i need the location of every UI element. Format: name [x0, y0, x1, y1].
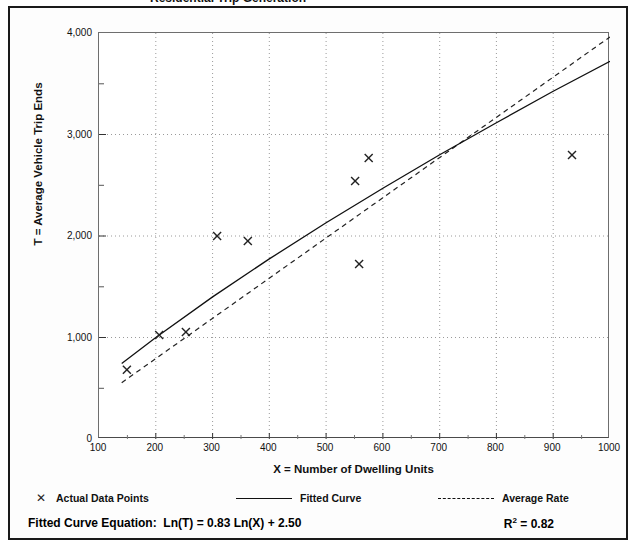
series-actual-data-points: [123, 151, 576, 374]
series-fitted-curve: [122, 61, 610, 363]
y-tick-1000: 1,000: [67, 331, 92, 342]
data-point-marker: [244, 237, 252, 245]
dashed-line-icon: [438, 492, 494, 504]
chart-title: Residential Trip Generation: [150, 0, 306, 5]
x-tick-200: 200: [146, 442, 163, 453]
data-point-marker: [351, 177, 359, 185]
x-tick-500: 500: [317, 442, 334, 453]
r-squared-exponent: 2: [513, 516, 517, 525]
r-squared-label: R: [504, 517, 513, 531]
series-average-rate: [122, 37, 610, 383]
x-tick-1000: 1000: [598, 442, 620, 453]
x-tick-800: 800: [487, 442, 504, 453]
legend-item-actual-data-points: ✕ Actual Data Points: [34, 488, 149, 508]
r-squared-value: = 0.82: [520, 517, 554, 531]
legend-label-average-rate: Average Rate: [502, 492, 569, 504]
x-marker-icon: ✕: [34, 492, 48, 504]
x-tick-300: 300: [203, 442, 220, 453]
legend-item-fitted-curve: Fitted Curve: [236, 488, 361, 508]
chart-footer: Fitted Curve Equation: Ln(T) = 0.83 Ln(X…: [28, 516, 612, 538]
plot-area: [98, 32, 609, 438]
equation-label: Fitted Curve Equation:: [28, 516, 157, 530]
x-tick-700: 700: [430, 442, 447, 453]
data-point-marker: [365, 154, 373, 162]
data-point-marker: [182, 328, 190, 336]
page-border: 0 1,000 2,000 3,000 4,000: [8, 6, 628, 540]
x-tick-100: 100: [90, 442, 107, 453]
legend-item-average-rate: Average Rate: [438, 488, 569, 508]
x-axis-label: X = Number of Dwelling Units: [98, 463, 609, 475]
x-axis-tick-labels: 100 200 300 400 500 600 700 800 900 1000: [98, 442, 609, 458]
equation-value: Ln(T) = 0.83 Ln(X) + 2.50: [163, 516, 301, 530]
y-tick-2000: 2,000: [67, 230, 92, 241]
legend-label-actual-data-points: Actual Data Points: [56, 492, 149, 504]
y-axis-label: T = Average Vehicle Trip Ends: [32, 54, 44, 274]
fitted-curve-equation: Fitted Curve Equation: Ln(T) = 0.83 Ln(X…: [28, 516, 301, 530]
x-tick-900: 900: [544, 442, 561, 453]
r-squared-statistic: R2 = 0.82: [504, 516, 554, 531]
chart-legend: ✕ Actual Data Points Fitted Curve Averag…: [20, 488, 620, 510]
y-axis-tick-labels: 0 1,000 2,000 3,000 4,000: [44, 32, 92, 438]
horizontal-gridlines: [99, 135, 610, 338]
plot-svg: [99, 33, 610, 439]
data-point-marker: [123, 366, 131, 374]
y-tick-3000: 3,000: [67, 128, 92, 139]
y-axis-major-ticks: [99, 135, 106, 338]
x-tick-600: 600: [374, 442, 391, 453]
chart-container: 0 1,000 2,000 3,000 4,000: [10, 8, 630, 542]
data-point-marker: [355, 260, 363, 268]
legend-label-fitted-curve: Fitted Curve: [300, 492, 361, 504]
data-point-marker: [568, 151, 576, 159]
x-axis-minor-ticks: [127, 435, 581, 439]
x-tick-400: 400: [260, 442, 277, 453]
y-tick-4000: 4,000: [67, 27, 92, 38]
solid-line-icon: [236, 492, 292, 504]
